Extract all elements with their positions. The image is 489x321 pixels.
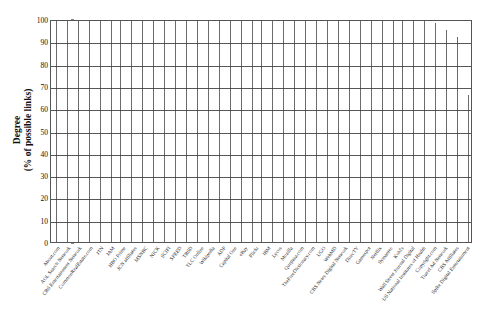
x-axis-labels: About.comAOL Search NetworkCBS Entertain… [50, 245, 472, 321]
x-tick-label-text: JTN [94, 245, 104, 256]
y-tick-label: 20 [41, 194, 49, 203]
y-tick-label: 90 [41, 38, 49, 47]
y-tick-label: 30 [41, 172, 49, 181]
plot-area [50, 20, 472, 243]
y-tick-label: 60 [41, 105, 49, 114]
y-tick-label: 0 [44, 239, 48, 248]
bar-series [51, 21, 471, 242]
y-tick-label: 50 [41, 127, 49, 136]
y-tick-label: 40 [41, 149, 49, 158]
y-tick-label: 70 [41, 82, 49, 91]
y-tick-label: 100 [37, 16, 48, 25]
bar [467, 95, 469, 242]
y-tick-label: 10 [41, 216, 49, 225]
degree-bar-chart: Degree (% of possible links) 01020304050… [0, 0, 489, 321]
y-tick-label: 80 [41, 60, 49, 69]
y-axis-title-line1: Degree [12, 89, 23, 172]
